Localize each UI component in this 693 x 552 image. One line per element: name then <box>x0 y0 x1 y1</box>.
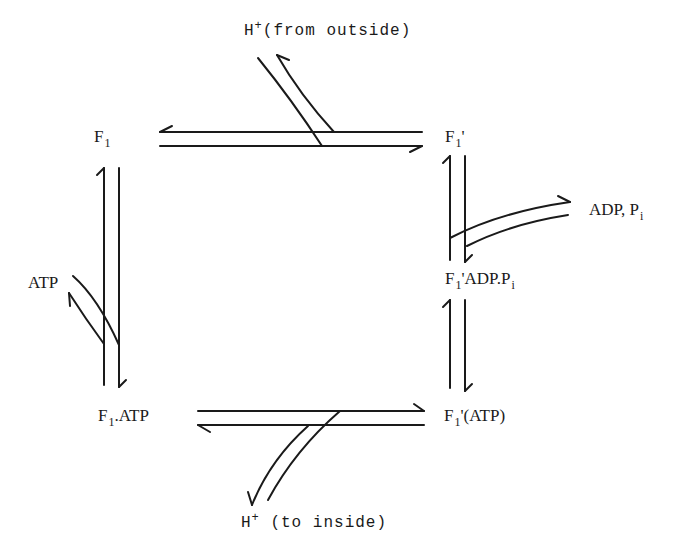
plus-superscript: + <box>255 19 263 33</box>
adp-pi-label: ADP, Pi <box>589 201 643 218</box>
arrows-layer <box>0 0 693 552</box>
node-f1-prime-adp-pi: F1'ADP.Pi <box>445 270 515 287</box>
node-base: F <box>98 406 107 425</box>
equilibrium-arrow-right-lower <box>443 300 472 391</box>
node-subscript: 1 <box>104 136 110 150</box>
node-base: F <box>94 127 103 146</box>
atp-text: ATP <box>28 273 58 292</box>
adp-pi-release-branch <box>450 196 570 246</box>
h-from-outside-label: H+(from outside) <box>244 23 411 39</box>
to-inside-text: (to inside) <box>260 514 387 532</box>
h-to-inside-label: H+ (to inside) <box>241 515 387 531</box>
equilibrium-arrow-left <box>97 168 126 387</box>
equilibrium-arrow-top <box>160 126 422 152</box>
node-suffix: '(ATP) <box>460 406 505 425</box>
node-subscript: 1 <box>455 278 461 292</box>
node-suffix: .ATP <box>114 406 148 425</box>
node-suffix-subscript: i <box>511 278 514 292</box>
from-outside-text: (from outside) <box>263 22 411 40</box>
atp-label: ATP <box>28 274 58 291</box>
node-f1-prime: F1' <box>445 128 465 145</box>
reaction-cycle-diagram: H+(from outside) F1 F1' ADP, Pi ATP F1'A… <box>0 0 693 552</box>
node-suffix: 'ADP.P <box>461 269 510 288</box>
plus-superscript: + <box>252 511 260 525</box>
node-suffix: ' <box>461 127 464 146</box>
node-subscript: 1 <box>455 136 461 150</box>
atp-binding-branch <box>69 276 119 345</box>
node-base: F <box>445 269 454 288</box>
i-subscript: i <box>640 209 643 223</box>
node-subscript: 1 <box>108 415 114 429</box>
h-symbol: H <box>244 22 255 40</box>
node-subscript: 1 <box>454 415 460 429</box>
node-f1-prime-atp: F1'(ATP) <box>444 407 505 424</box>
node-base: F <box>444 406 453 425</box>
node-f1-atp: F1.ATP <box>98 407 149 424</box>
node-base: F <box>445 127 454 146</box>
adp-p-text: ADP, P <box>589 200 639 219</box>
node-f1: F1 <box>94 128 110 145</box>
equilibrium-arrow-bottom <box>198 404 424 432</box>
h-symbol: H <box>241 514 252 532</box>
